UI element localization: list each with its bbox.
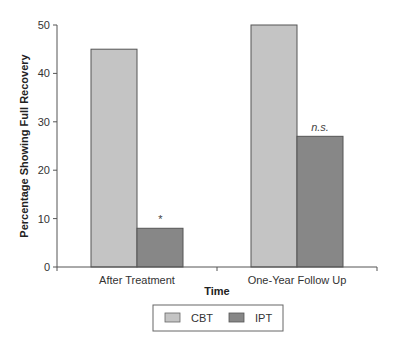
- x-ticks-group: After TreatmentOne-Year Follow Up: [57, 267, 377, 286]
- y-tick-label: 20: [38, 164, 50, 176]
- y-tick-label: 10: [38, 213, 50, 225]
- y-ticks-group: 01020304050: [38, 19, 57, 273]
- x-tick-label: After Treatment: [99, 274, 175, 286]
- legend-label-cbt: CBT: [191, 312, 213, 324]
- legend-swatch-ipt: [229, 313, 244, 322]
- y-tick-label: 40: [38, 67, 50, 79]
- y-tick-label: 30: [38, 116, 50, 128]
- bars-group: [91, 25, 343, 267]
- bar-chart: *n.s. 01020304050 After TreatmentOne-Yea…: [0, 0, 396, 348]
- y-tick-label: 0: [44, 261, 50, 273]
- significance-annotation: n.s.: [311, 121, 329, 133]
- y-axis-title: Percentage Showing Full Recovery: [18, 53, 30, 237]
- bar-cbt-1: [251, 25, 297, 267]
- legend-swatch-cbt: [165, 313, 180, 322]
- legend: CBT IPT: [153, 305, 283, 331]
- x-tick-label: One-Year Follow Up: [248, 274, 347, 286]
- bar-ipt-1: [297, 136, 343, 267]
- bar-cbt-0: [91, 49, 137, 267]
- y-tick-label: 50: [38, 19, 50, 31]
- legend-label-ipt: IPT: [255, 312, 272, 324]
- bar-ipt-0: [137, 228, 183, 267]
- significance-annotation: *: [158, 213, 163, 225]
- x-axis-title: Time: [204, 285, 229, 297]
